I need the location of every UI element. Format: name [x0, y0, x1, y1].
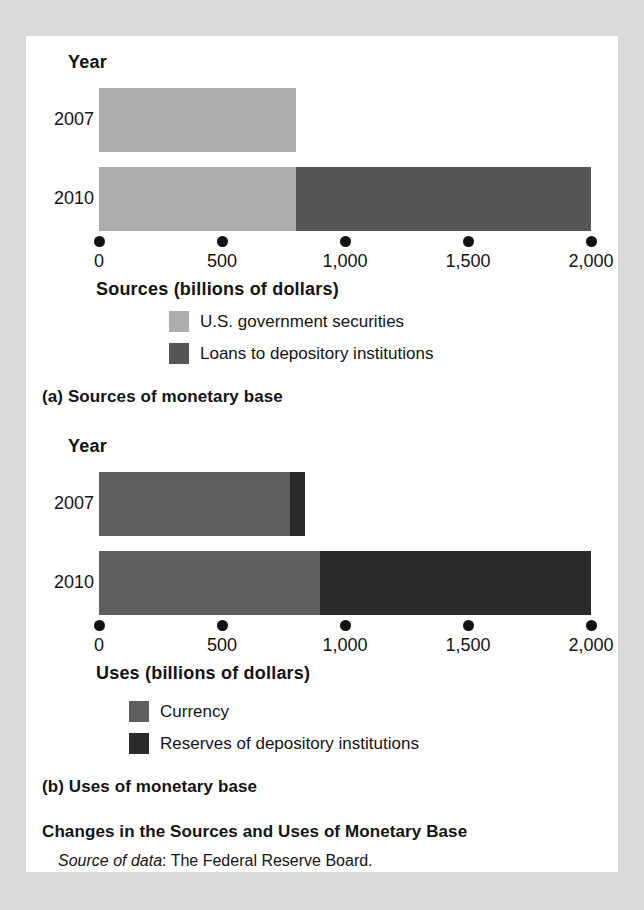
legend-swatch-icon [129, 733, 149, 754]
tick-label-500: 500 [207, 635, 237, 656]
tick-label-1500: 1,500 [445, 635, 490, 656]
panel-b-category-label-2010: 2010 [34, 572, 94, 593]
legend-swatch-icon [169, 343, 189, 364]
bar-segment-us-government-securities [99, 88, 296, 152]
tick-dot-1000 [340, 620, 351, 631]
source-note: Source of data: The Federal Reserve Boar… [58, 852, 373, 870]
figure-card: Year 2007 2010 0 500 1,000 1,500 2,000 S… [26, 36, 618, 872]
bar-2007-uses [99, 472, 305, 536]
legend-label: U.S. government securities [200, 312, 404, 332]
legend-item-reserves-of-depository-institutions: Reserves of depository institutions [129, 733, 419, 754]
tick-dot-1500 [463, 236, 474, 247]
tick-label-500: 500 [207, 251, 237, 272]
tick-label-1500: 1,500 [445, 251, 490, 272]
tick-dot-0 [94, 236, 105, 247]
source-note-label: Source of data [58, 852, 162, 869]
legend-swatch-icon [129, 701, 149, 722]
bar-segment-currency [99, 551, 320, 615]
tick-dot-2000 [586, 620, 597, 631]
source-note-text: : The Federal Reserve Board. [162, 852, 372, 869]
panel-b-caption: (b) Uses of monetary base [42, 777, 257, 797]
bar-2010-uses [99, 551, 591, 615]
tick-label-0: 0 [94, 635, 104, 656]
tick-label-1000: 1,000 [322, 635, 367, 656]
bar-segment-reserves-of-depository-institutions [320, 551, 591, 615]
tick-dot-1500 [463, 620, 474, 631]
bar-segment-us-government-securities [99, 167, 296, 231]
panel-a-category-axis-title: Year [68, 52, 107, 73]
bar-2007-sources [99, 88, 296, 152]
panel-b-value-axis-title: Uses (billions of dollars) [96, 663, 310, 684]
bar-2010-sources [99, 167, 591, 231]
bar-segment-loans-to-depository-institutions [296, 167, 591, 231]
panel-a-category-label-2010: 2010 [34, 188, 94, 209]
legend-item-loans-to-depository-institutions: Loans to depository institutions [169, 343, 433, 364]
bar-segment-currency [99, 472, 290, 536]
legend-label: Currency [160, 702, 229, 722]
tick-dot-2000 [586, 236, 597, 247]
tick-label-2000: 2,000 [568, 635, 613, 656]
bar-segment-reserves-of-depository-institutions [290, 472, 305, 536]
panel-a-category-label-2007: 2007 [34, 109, 94, 130]
tick-dot-500 [217, 620, 228, 631]
legend-swatch-icon [169, 311, 189, 332]
panel-a-caption: (a) Sources of monetary base [42, 387, 283, 407]
tick-label-1000: 1,000 [322, 251, 367, 272]
legend-item-us-government-securities: U.S. government securities [169, 311, 404, 332]
legend-label: Reserves of depository institutions [160, 734, 419, 754]
tick-dot-0 [94, 620, 105, 631]
tick-dot-1000 [340, 236, 351, 247]
tick-label-2000: 2,000 [568, 251, 613, 272]
panel-a-value-axis-title: Sources (billions of dollars) [96, 279, 339, 300]
panel-b-category-axis-title: Year [68, 436, 107, 457]
figure-title: Changes in the Sources and Uses of Monet… [42, 822, 467, 842]
tick-label-0: 0 [94, 251, 104, 272]
legend-item-currency: Currency [129, 701, 229, 722]
legend-label: Loans to depository institutions [200, 344, 433, 364]
tick-dot-500 [217, 236, 228, 247]
panel-b-category-label-2007: 2007 [34, 493, 94, 514]
